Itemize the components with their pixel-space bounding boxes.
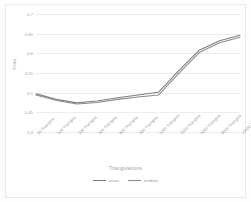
legend-line-icon bbox=[128, 180, 141, 181]
legend-item-mean[interactable]: mean bbox=[93, 178, 119, 183]
y-axis-tick-label: 0.45 bbox=[25, 110, 33, 115]
x-axis-tick-labels: 50 Triangles100 Triangles200 Triangles40… bbox=[36, 132, 240, 166]
chart-figure: SSIM 0.70.650.60.550.50.450.4 50 Triangl… bbox=[0, 0, 251, 202]
legend-label: median bbox=[144, 178, 158, 183]
line-series-group bbox=[36, 14, 240, 132]
line-series-median bbox=[36, 37, 240, 104]
plot-area: 0.70.650.60.550.50.450.4 bbox=[36, 14, 240, 132]
y-axis-tick-label: 0.4 bbox=[27, 130, 33, 135]
x-axis-title: Triangulations bbox=[0, 166, 251, 171]
legend-line-icon bbox=[93, 180, 106, 181]
legend-label: mean bbox=[109, 178, 120, 183]
y-axis-title: SSIM bbox=[12, 45, 17, 85]
line-series-mean bbox=[36, 35, 240, 103]
legend-item-median[interactable]: median bbox=[128, 178, 158, 183]
y-axis-tick-label: 0.7 bbox=[27, 12, 33, 17]
y-axis-tick-label: 0.5 bbox=[27, 90, 33, 95]
y-axis-tick-label: 0.65 bbox=[25, 31, 33, 36]
y-axis-tick-label: 0.55 bbox=[25, 71, 33, 76]
y-axis-tick-label: 0.6 bbox=[27, 51, 33, 56]
chart-legend: meanmedian bbox=[0, 178, 251, 183]
